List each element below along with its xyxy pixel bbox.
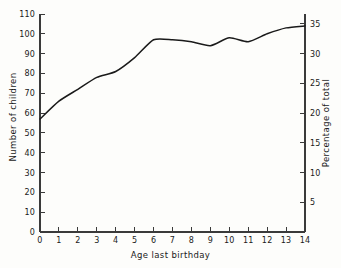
svg-text:50: 50 bbox=[24, 129, 35, 138]
chart-tick-marks bbox=[40, 14, 305, 232]
svg-text:40: 40 bbox=[24, 149, 35, 158]
line-chart: 0123456789101112131401020304050607080901… bbox=[0, 0, 341, 268]
svg-text:25: 25 bbox=[310, 79, 321, 88]
svg-text:10: 10 bbox=[24, 208, 35, 217]
svg-text:14: 14 bbox=[300, 236, 311, 245]
svg-text:13: 13 bbox=[281, 236, 292, 245]
chart-plot-area: 0123456789101112131401020304050607080901… bbox=[0, 0, 341, 268]
chart-axes bbox=[40, 14, 305, 232]
chart-data-line bbox=[40, 26, 305, 119]
svg-text:30: 30 bbox=[310, 50, 321, 59]
svg-text:15: 15 bbox=[310, 139, 321, 148]
svg-text:7: 7 bbox=[170, 236, 175, 245]
svg-text:3: 3 bbox=[94, 236, 99, 245]
svg-text:9: 9 bbox=[208, 236, 213, 245]
svg-text:30: 30 bbox=[24, 169, 35, 178]
svg-text:60: 60 bbox=[24, 109, 35, 118]
svg-text:35: 35 bbox=[310, 20, 321, 29]
svg-text:20: 20 bbox=[310, 109, 321, 118]
svg-text:2: 2 bbox=[75, 236, 80, 245]
svg-text:6: 6 bbox=[151, 236, 156, 245]
svg-text:4: 4 bbox=[113, 236, 118, 245]
svg-text:70: 70 bbox=[24, 89, 35, 98]
svg-text:11: 11 bbox=[243, 236, 254, 245]
x-axis-title: Age last birthday bbox=[0, 250, 341, 260]
svg-text:20: 20 bbox=[24, 188, 35, 197]
svg-text:0: 0 bbox=[30, 228, 35, 237]
svg-text:12: 12 bbox=[262, 236, 273, 245]
svg-text:8: 8 bbox=[189, 236, 194, 245]
svg-text:1: 1 bbox=[56, 236, 61, 245]
svg-text:0: 0 bbox=[37, 236, 42, 245]
svg-text:100: 100 bbox=[19, 30, 35, 39]
svg-text:5: 5 bbox=[132, 236, 137, 245]
svg-text:90: 90 bbox=[24, 50, 35, 59]
svg-text:10: 10 bbox=[310, 169, 321, 178]
y-axis-left-title: Number of children bbox=[8, 57, 18, 177]
y-axis-right-title: Percentage of total bbox=[321, 63, 331, 183]
svg-text:10: 10 bbox=[224, 236, 235, 245]
svg-text:80: 80 bbox=[24, 69, 35, 78]
svg-text:110: 110 bbox=[19, 10, 35, 19]
svg-text:5: 5 bbox=[310, 198, 315, 207]
chart-tick-labels: 0123456789101112131401020304050607080901… bbox=[19, 10, 320, 245]
